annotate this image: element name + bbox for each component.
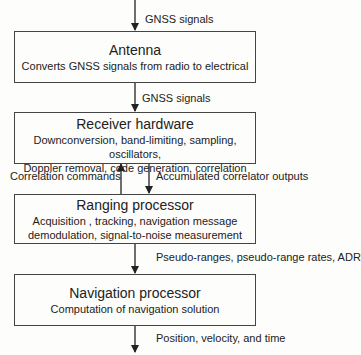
pseudo-ranges-label: Pseudo-ranges, pseudo-range rates, ADR [156,251,361,263]
ranging-processor-box: Ranging processor Acquisition , tracking… [14,194,256,244]
navigation-processor-desc: Computation of navigation solution [15,302,255,316]
input-signal-label: GNSS signals [145,13,213,25]
receiver-hardware-box: Receiver hardware Downconversion, band-l… [14,112,256,164]
navigation-processor-title: Navigation processor [15,285,255,302]
ranging-processor-title: Ranging processor [15,197,255,214]
receiver-hardware-title: Receiver hardware [15,116,255,133]
receiver-hardware-desc-line1: Downconversion, band-limiting, sampling,… [15,133,255,161]
correlator-outputs-label: Accumulated correlator outputs [156,170,308,182]
antenna-output-label: GNSS signals [142,92,210,104]
correlation-commands-label: Correlation commands [10,170,121,182]
antenna-box: Antenna Converts GNSS signals from radio… [14,31,256,83]
ranging-processor-desc-line2: demodulation, signal-to-noise measuremen… [15,228,255,242]
ranging-processor-desc-line1: Acquisition , tracking, navigation messa… [15,214,255,228]
output-label: Position, velocity, and time [156,332,285,344]
antenna-title: Antenna [15,42,255,59]
antenna-desc: Converts GNSS signals from radio to elec… [15,59,255,73]
navigation-processor-box: Navigation processor Computation of navi… [14,274,256,326]
